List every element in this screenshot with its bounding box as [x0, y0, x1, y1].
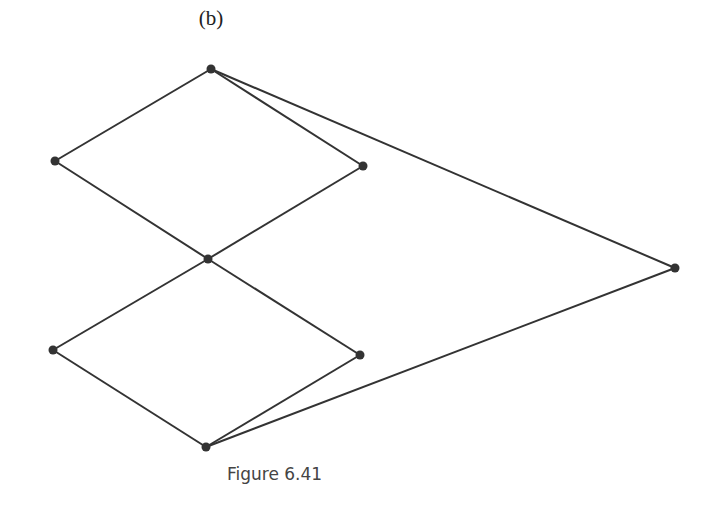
- edge-right-upper-middle: [208, 166, 363, 259]
- node-bottom: [202, 443, 211, 452]
- edge-left-upper-middle: [55, 161, 208, 259]
- edge-right-lower-bottom: [206, 355, 360, 447]
- nodes-group: [49, 65, 680, 452]
- node-top: [207, 65, 216, 74]
- hasse-diagram-figure: (b) Figure 6.41: [0, 0, 706, 516]
- node-right-upper: [359, 162, 368, 171]
- panel-label: (b): [186, 6, 236, 31]
- node-left-upper: [51, 157, 60, 166]
- node-right-lower: [356, 351, 365, 360]
- graph-canvas: [0, 0, 706, 516]
- edges-group: [53, 69, 675, 447]
- edge-bottom-far-right: [206, 268, 675, 447]
- node-left-lower: [49, 346, 58, 355]
- edge-top-right-upper: [211, 69, 363, 166]
- node-middle: [204, 255, 213, 264]
- edge-top-far-right: [211, 69, 675, 268]
- node-far-right: [671, 264, 680, 273]
- edge-top-left-upper: [55, 69, 211, 161]
- figure-caption: Figure 6.41: [227, 464, 322, 484]
- edge-middle-left-lower: [53, 259, 208, 350]
- edge-middle-right-lower: [208, 259, 360, 355]
- edge-left-lower-bottom: [53, 350, 206, 447]
